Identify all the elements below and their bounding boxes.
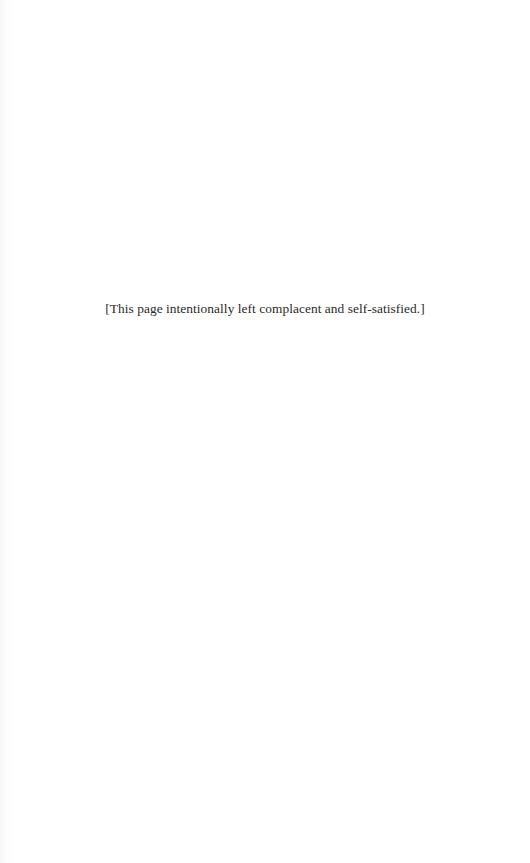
document-page: [This page intentionally left complacent…: [0, 0, 530, 863]
intentionally-blank-note: [This page intentionally left complacent…: [0, 301, 530, 317]
